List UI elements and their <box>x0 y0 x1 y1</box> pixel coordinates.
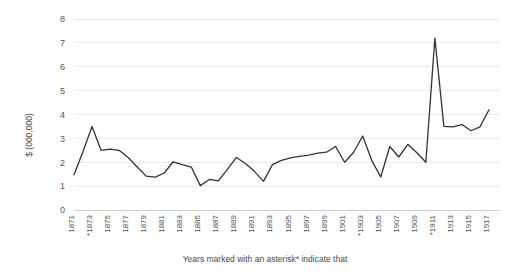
x-axis-tick-label: 1893 <box>265 214 274 232</box>
data-series-line <box>74 38 489 186</box>
x-axis-tick-label: 1907 <box>392 214 401 232</box>
y-axis-tick-label: 4 <box>60 110 65 120</box>
x-axis-tick-label: *1903 <box>356 214 365 235</box>
x-axis-tick-label: 1915 <box>464 214 473 232</box>
x-axis-tick-label: 1889 <box>229 214 238 232</box>
line-chart: 012345678 1871*1873187518771879188118831… <box>0 0 513 272</box>
x-axis-tick-label: 1909 <box>410 214 419 232</box>
x-axis-tick-label: 1871 <box>67 214 76 232</box>
x-axis-tick-label: 1875 <box>103 214 112 232</box>
chart-container: 012345678 1871*1873187518771879188118831… <box>0 0 513 272</box>
y-axis-tick-label: 3 <box>60 134 65 144</box>
x-axis-tick-label: 1881 <box>157 214 166 232</box>
x-axis-tick-label: 1879 <box>139 214 148 232</box>
y-axis-tick-label: 2 <box>60 158 65 168</box>
x-axis-tick-label: 1895 <box>284 214 293 232</box>
y-axis-tick-label: 5 <box>60 86 65 96</box>
x-axis-tick-label: 1883 <box>175 214 184 232</box>
chart-annotation: Years marked with an asterisk* indicate … <box>183 254 348 264</box>
x-axis-tick-label: *1873 <box>85 214 94 235</box>
y-axis-tick-label: 0 <box>60 205 65 215</box>
x-axis-tick-label: 1877 <box>121 214 130 232</box>
x-axis-tick-label: 1897 <box>302 214 311 232</box>
x-axis-tick-label: 1905 <box>374 214 383 232</box>
y-axis-label: $ (000,000) <box>24 113 34 157</box>
x-axis-ticks: 1871*18731875187718791881188318851887188… <box>67 214 491 235</box>
x-axis-tick-label: *1911 <box>428 214 437 235</box>
x-axis-tick-label: 1885 <box>193 214 202 232</box>
x-axis-tick-label: 1891 <box>247 214 256 232</box>
y-axis-tick-label: 7 <box>60 38 65 48</box>
y-axis-tick-label: 6 <box>60 62 65 72</box>
y-axis-tick-label: 8 <box>60 14 65 24</box>
y-axis-tick-label: 1 <box>60 181 65 191</box>
x-axis-tick-label: 1899 <box>320 214 329 232</box>
x-axis-tick-label: 1913 <box>446 214 455 232</box>
x-axis-tick-label: 1917 <box>482 214 491 232</box>
x-axis-tick-label: 1901 <box>338 214 347 232</box>
y-axis-ticks: 012345678 <box>60 14 65 215</box>
x-axis-tick-label: 1887 <box>211 214 220 232</box>
